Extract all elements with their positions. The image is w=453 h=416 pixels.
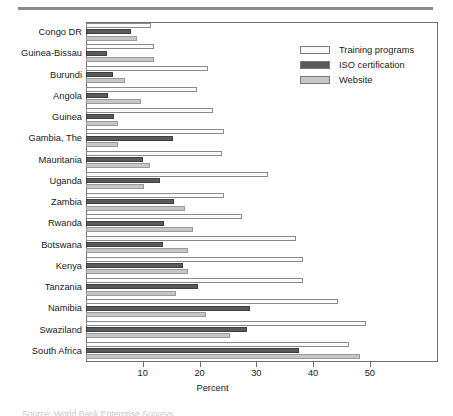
category-label: Gambia, The bbox=[0, 128, 82, 149]
bar-iso-certification bbox=[86, 51, 107, 56]
bar-training-programs bbox=[86, 214, 242, 219]
bar-iso-certification bbox=[86, 178, 160, 183]
x-axis-tick bbox=[313, 362, 314, 367]
bar-website bbox=[86, 57, 154, 62]
legend-label: Training programs bbox=[339, 45, 414, 55]
bar-iso-certification bbox=[86, 348, 299, 353]
x-axis-title-text: Percent bbox=[196, 383, 228, 393]
category-label: Uganda bbox=[0, 171, 82, 192]
bar-website bbox=[86, 354, 360, 359]
category-label: Tanzania bbox=[0, 277, 82, 298]
bar-row: Zambia bbox=[0, 192, 453, 213]
legend-item: ISO certification bbox=[300, 57, 414, 72]
category-label: Guinea-Bissau bbox=[0, 43, 82, 64]
bar-iso-certification bbox=[86, 136, 173, 141]
bar-website bbox=[86, 248, 188, 253]
bar-training-programs bbox=[86, 342, 349, 347]
bar-iso-certification bbox=[86, 199, 174, 204]
bar-iso-certification bbox=[86, 263, 183, 268]
legend-swatch-icon bbox=[300, 46, 330, 54]
category-label: Rwanda bbox=[0, 213, 82, 234]
bar-iso-certification bbox=[86, 157, 143, 162]
bar-iso-certification bbox=[86, 242, 163, 247]
chart-legend: Training programsISO certificationWebsit… bbox=[300, 42, 414, 87]
category-label: South Africa bbox=[0, 341, 82, 362]
legend-label: ISO certification bbox=[339, 60, 405, 70]
x-axis-tick bbox=[143, 362, 144, 367]
bar-training-programs bbox=[86, 44, 154, 49]
bar-website bbox=[86, 206, 185, 211]
bar-training-programs bbox=[86, 66, 208, 71]
bar-row: Gambia, The bbox=[0, 128, 453, 149]
x-axis-tick-label: 30 bbox=[241, 368, 271, 378]
bar-website bbox=[86, 312, 206, 317]
legend-swatch-icon bbox=[300, 61, 330, 69]
bar-training-programs bbox=[86, 172, 268, 177]
bar-training-programs bbox=[86, 236, 296, 241]
category-label: Namibia bbox=[0, 298, 82, 319]
x-axis-tick bbox=[370, 362, 371, 367]
bar-training-programs bbox=[86, 278, 303, 283]
bar-website bbox=[86, 36, 137, 41]
bar-training-programs bbox=[86, 193, 224, 198]
x-axis-title: Percent bbox=[0, 383, 453, 393]
bar-training-programs bbox=[86, 129, 224, 134]
bar-row: Rwanda bbox=[0, 213, 453, 234]
category-label: Burundi bbox=[0, 65, 82, 86]
bar-row: Mauritania bbox=[0, 150, 453, 171]
bar-iso-certification bbox=[86, 306, 250, 311]
bar-training-programs bbox=[86, 151, 222, 156]
x-axis-tick-label: 20 bbox=[185, 368, 215, 378]
bar-row: Namibia bbox=[0, 298, 453, 319]
bar-iso-certification bbox=[86, 221, 164, 226]
bar-row: Swaziland bbox=[0, 320, 453, 341]
bar-training-programs bbox=[86, 87, 197, 92]
x-axis-tick-label: 10 bbox=[128, 368, 158, 378]
bar-website bbox=[86, 227, 193, 232]
bar-training-programs bbox=[86, 257, 303, 262]
category-label: Guinea bbox=[0, 107, 82, 128]
bar-website bbox=[86, 163, 150, 168]
x-axis-tick-label: 50 bbox=[355, 368, 385, 378]
bar-iso-certification bbox=[86, 114, 114, 119]
bar-training-programs bbox=[86, 108, 213, 113]
bar-row: South Africa bbox=[0, 341, 453, 362]
bar-row: Congo DR bbox=[0, 22, 453, 43]
category-label: Zambia bbox=[0, 192, 82, 213]
category-label: Mauritania bbox=[0, 150, 82, 171]
figure-source-caption: Source: World Bank Enterprise Surveys. bbox=[22, 409, 176, 416]
bar-iso-certification bbox=[86, 72, 113, 77]
x-axis-tick-label: 40 bbox=[298, 368, 328, 378]
category-label: Swaziland bbox=[0, 320, 82, 341]
legend-label: Website bbox=[339, 75, 372, 85]
legend-item: Website bbox=[300, 72, 414, 87]
bar-website bbox=[86, 121, 118, 126]
x-axis-tick bbox=[200, 362, 201, 367]
bar-row: Kenya bbox=[0, 256, 453, 277]
horizontal-bar-chart: Congo DRGuinea-BissauBurundiAngolaGuinea… bbox=[0, 0, 453, 416]
bar-website bbox=[86, 99, 141, 104]
bar-training-programs bbox=[86, 299, 338, 304]
bar-website bbox=[86, 184, 144, 189]
bar-website bbox=[86, 291, 176, 296]
legend-swatch-icon bbox=[300, 76, 330, 84]
bar-website bbox=[86, 78, 125, 83]
category-label: Angola bbox=[0, 86, 82, 107]
bar-iso-certification bbox=[86, 29, 131, 34]
bar-website bbox=[86, 142, 118, 147]
bar-row: Guinea bbox=[0, 107, 453, 128]
bar-iso-certification bbox=[86, 284, 198, 289]
category-label: Botswana bbox=[0, 235, 82, 256]
bar-row: Uganda bbox=[0, 171, 453, 192]
bar-training-programs bbox=[86, 23, 151, 28]
bar-row: Tanzania bbox=[0, 277, 453, 298]
legend-item: Training programs bbox=[300, 42, 414, 57]
bar-iso-certification bbox=[86, 93, 108, 98]
bar-row: Botswana bbox=[0, 235, 453, 256]
bar-iso-certification bbox=[86, 327, 247, 332]
bar-training-programs bbox=[86, 321, 366, 326]
bar-website bbox=[86, 269, 188, 274]
bar-row: Angola bbox=[0, 86, 453, 107]
x-axis-tick bbox=[256, 362, 257, 367]
category-label: Congo DR bbox=[0, 22, 82, 43]
